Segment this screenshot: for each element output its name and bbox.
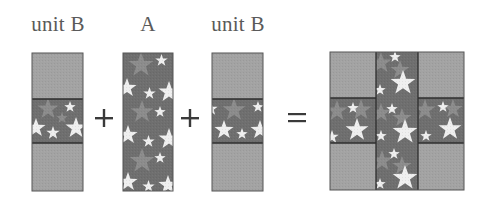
- equals-operator: [288, 113, 306, 122]
- unit-b-left: [27, 53, 87, 191]
- result-block: [325, 51, 464, 190]
- strip-a: [118, 52, 180, 193]
- plus-operator-2: [181, 109, 199, 127]
- plus-operator-1: [95, 109, 113, 127]
- unit-b-right: [204, 53, 269, 191]
- quilt-assembly-diagram: [0, 0, 490, 210]
